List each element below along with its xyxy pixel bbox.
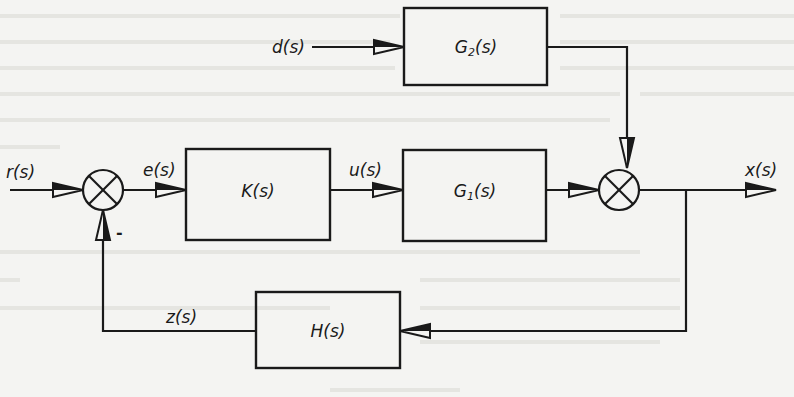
arrow-right-icon — [569, 183, 599, 197]
block-feedback: H(s) — [256, 292, 400, 368]
arrow-right-icon — [373, 183, 403, 197]
arrow-right-icon — [53, 183, 83, 197]
signal-disturbance-label: d(s) — [272, 37, 305, 57]
signal-output-label: x(s) — [744, 160, 777, 180]
block-plant: G1(s) — [403, 150, 546, 241]
block-disturbance-filter: G2(s) — [404, 8, 547, 85]
block-controller: K(s) — [186, 149, 330, 240]
arrow-right-icon — [746, 183, 776, 197]
plant-label: G1(s) — [454, 181, 496, 203]
signal-error-label: e(s) — [143, 160, 176, 180]
signal-reference-label: r(s) — [6, 162, 35, 182]
arrow-right-icon — [156, 183, 186, 197]
arrow-down-icon — [620, 138, 634, 168]
block-diagram: K(s) G1(s) G2(s) H(s) — [0, 0, 794, 397]
signal-feedback-label: z(s) — [165, 307, 197, 327]
wire-disturbance-output — [547, 47, 627, 168]
controller-label: K(s) — [241, 181, 274, 201]
minus-sign-label: - — [116, 223, 123, 242]
arrow-left-icon — [400, 324, 430, 338]
feedback-label: H(s) — [311, 321, 346, 341]
arrow-up-icon — [96, 210, 110, 240]
disturbance-filter-label: G2(s) — [455, 37, 497, 59]
summing-junction-1 — [83, 170, 123, 210]
summing-junction-2 — [599, 170, 639, 210]
signal-control-label: u(s) — [349, 160, 382, 180]
